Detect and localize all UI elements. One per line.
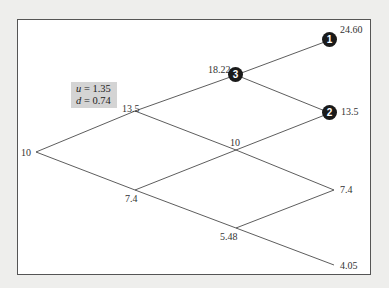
node-price-downdown: 5.48 — [220, 232, 238, 242]
d-value: = 0.74 — [84, 95, 111, 106]
parameters-box: u = 1.35 d = 0.74 — [71, 82, 117, 108]
node-price-up: 13.5 — [122, 104, 140, 114]
node-price-step0: 10 — [21, 148, 31, 158]
u-value: = 1.35 — [84, 83, 111, 94]
d-label: d — [76, 95, 81, 106]
node-price-uuu: 24.60 — [340, 25, 363, 35]
node-price-down: 7.4 — [125, 194, 138, 204]
marker-1-icon: 1 — [322, 32, 337, 47]
node-price-mid: 10 — [230, 138, 240, 148]
node-price-uud: 13.5 — [341, 107, 359, 117]
marker-2-icon: 2 — [322, 105, 337, 120]
node-price-udd: 7.4 — [340, 185, 353, 195]
marker-3-icon: 3 — [228, 67, 243, 82]
node-price-ddd: 4.05 — [340, 261, 358, 271]
u-label: u — [76, 83, 81, 94]
